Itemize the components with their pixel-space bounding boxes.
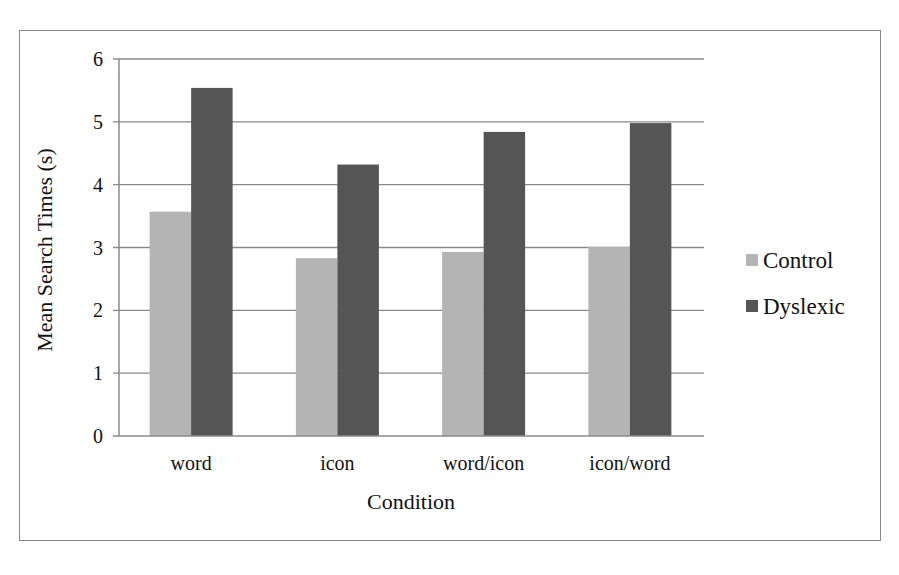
bar-dyslexic-word bbox=[191, 88, 233, 436]
y-tick-label: 3 bbox=[93, 237, 103, 259]
bar-dyslexic-word-icon bbox=[484, 132, 526, 436]
y-axis-title: Mean Search Times (s) bbox=[32, 148, 57, 351]
legend: Control Dyslexic bbox=[746, 248, 845, 319]
y-tick-label: 1 bbox=[93, 362, 103, 384]
legend-label-control: Control bbox=[763, 248, 833, 273]
y-tick-label: 5 bbox=[93, 111, 103, 133]
x-tick-label: word/icon bbox=[443, 452, 524, 474]
bars bbox=[150, 88, 672, 436]
bar-dyslexic-icon-word bbox=[630, 123, 672, 436]
y-axis-ticks: 0123456 bbox=[93, 48, 103, 447]
legend-label-dyslexic: Dyslexic bbox=[763, 294, 845, 319]
x-tick-label: icon bbox=[320, 452, 354, 474]
legend-swatch-control bbox=[746, 254, 758, 266]
y-tick-label: 4 bbox=[93, 174, 103, 196]
bar-dyslexic-icon bbox=[337, 165, 379, 436]
x-axis-title: Condition bbox=[367, 489, 455, 514]
x-axis-labels: wordiconword/iconicon/word bbox=[171, 452, 671, 474]
bar-control-word bbox=[150, 212, 192, 436]
y-tick-label: 2 bbox=[93, 299, 103, 321]
bar-control-icon-word bbox=[588, 247, 630, 436]
bar-control-word-icon bbox=[442, 252, 484, 436]
x-tick-label: icon/word bbox=[589, 452, 670, 474]
y-tick-label: 0 bbox=[93, 425, 103, 447]
y-tick-label: 6 bbox=[93, 48, 103, 70]
x-tick-label: word bbox=[171, 452, 212, 474]
legend-swatch-dyslexic bbox=[746, 300, 758, 312]
bar-control-icon bbox=[296, 258, 338, 436]
bar-chart: 0123456 wordiconword/iconicon/word Condi… bbox=[0, 0, 899, 575]
